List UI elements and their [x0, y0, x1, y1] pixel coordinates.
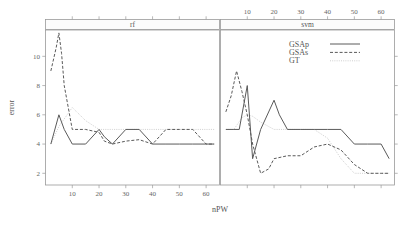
x-tick-label-bottom-0: 10 — [69, 190, 77, 198]
x-tick-label-top-5: 60 — [378, 8, 386, 16]
y-axis-title: error — [7, 99, 16, 115]
y-tick-label-0: 2 — [37, 170, 41, 178]
x-tick-label-top-1: 20 — [271, 8, 279, 16]
legend: GSApGSAsGT — [289, 40, 360, 66]
x-tick-label-top-3: 40 — [324, 8, 332, 16]
y-tick-label-4: 10 — [33, 53, 41, 61]
x-axis-title: nPW — [212, 205, 228, 214]
y-tick-label-2: 6 — [37, 111, 41, 119]
y-tick-label-1: 4 — [37, 140, 41, 148]
x-tick-label-top-2: 30 — [297, 8, 305, 16]
x-tick-label-bottom-5: 60 — [203, 190, 211, 198]
x-tick-label-bottom-2: 30 — [122, 190, 130, 198]
x-tick-label-bottom-1: 20 — [96, 190, 104, 198]
series-svm-GSAp — [226, 86, 389, 159]
legend-label-GT: GT — [289, 56, 300, 65]
x-tick-label-top-4: 50 — [351, 8, 359, 16]
x-tick-label-bottom-4: 50 — [176, 190, 184, 198]
panel-strip-svm: svm — [221, 20, 395, 30]
y-tick-label-3: 8 — [37, 82, 41, 90]
x-tick-label-top-0: 10 — [244, 8, 252, 16]
panel-frame-rf — [46, 30, 220, 185]
panel-strip-rf: rf — [46, 20, 220, 30]
x-tick-label-bottom-3: 40 — [149, 190, 157, 198]
chart-figure: rfsvm101020203030404050506060246810nPWer… — [0, 0, 417, 228]
strip-label-rf: rf — [130, 20, 135, 29]
strip-label-svm: svm — [301, 20, 314, 29]
series-rf-GT — [51, 108, 214, 145]
series-rf-GSAs — [51, 33, 214, 144]
trellis-chart-canvas: rfsvm101020203030404050506060246810nPWer… — [0, 0, 417, 228]
